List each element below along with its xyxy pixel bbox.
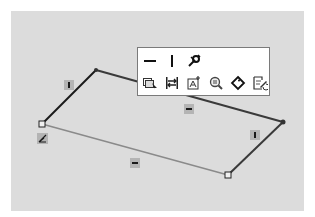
horizontal-icon	[186, 108, 192, 110]
sketch-geometry[interactable]	[0, 0, 315, 217]
sketch-point-top-right[interactable]	[281, 120, 286, 125]
fix-relation-button[interactable]	[184, 51, 204, 71]
vertical-icon	[164, 53, 180, 69]
edit-sketch-button[interactable]	[250, 73, 270, 93]
add-relation-icon	[186, 75, 202, 91]
vertical-icon	[68, 82, 70, 88]
sketch-point-top-left[interactable]	[94, 68, 98, 72]
horizontal-relation-badge[interactable]	[184, 104, 194, 114]
dimension-icon	[164, 75, 180, 91]
sketch-point-bottom-right[interactable]	[225, 172, 231, 178]
zoom-selection-button[interactable]	[206, 73, 226, 93]
edit-sketch-icon	[252, 75, 268, 91]
add-relation-button[interactable]	[184, 73, 204, 93]
select-other-button[interactable]	[140, 73, 160, 93]
sketch-edge-left[interactable]	[42, 70, 96, 124]
context-toolbar	[137, 47, 270, 96]
select-other-icon	[142, 75, 158, 91]
horizontal-relation-badge[interactable]	[130, 158, 140, 168]
horizontal-icon	[142, 53, 158, 69]
sketch-point-left[interactable]	[39, 121, 45, 127]
horizontal-relation-button[interactable]	[140, 51, 160, 71]
vertical-relation-badge[interactable]	[64, 80, 74, 90]
toolbar-row-tools	[138, 72, 270, 94]
vertical-relation-button[interactable]	[162, 51, 182, 71]
smart-dimension-button[interactable]	[162, 73, 182, 93]
fix-icon	[186, 53, 202, 69]
zoom-icon	[208, 75, 224, 91]
vertical-relation-badge[interactable]	[250, 130, 260, 140]
tag-button[interactable]	[228, 73, 248, 93]
coincident-icon	[37, 133, 48, 144]
coincident-relation-badge[interactable]	[37, 133, 48, 144]
tag-icon	[230, 75, 246, 91]
toolbar-row-relations	[138, 50, 204, 72]
horizontal-icon	[132, 162, 138, 164]
vertical-icon	[254, 132, 256, 138]
